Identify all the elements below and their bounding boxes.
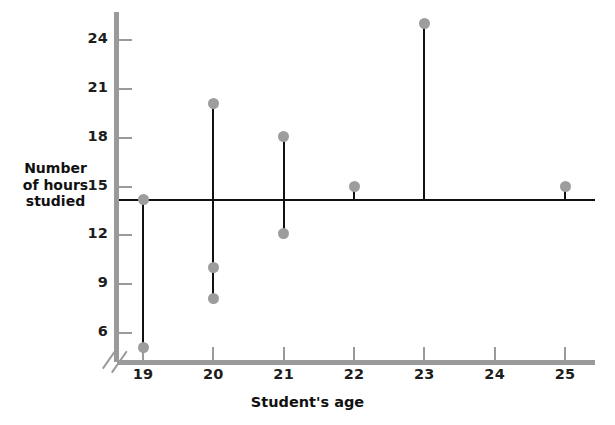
scatter-chart: 691215182124 19202122232425 Numberof hou… (0, 0, 615, 425)
data-point (138, 194, 149, 205)
x-axis-title: Student's age (0, 394, 615, 410)
y-tick-label: 9 (62, 274, 108, 290)
y-tick-label: 24 (62, 30, 108, 46)
x-tick-label: 19 (121, 366, 165, 382)
data-stem (142, 199, 144, 348)
y-axis-title-line: studied (8, 193, 103, 210)
data-stem (283, 136, 285, 234)
x-tick-label: 20 (191, 366, 235, 382)
x-tick (564, 347, 566, 360)
data-point (208, 293, 219, 304)
data-point (138, 342, 149, 353)
y-tick (119, 137, 132, 139)
x-tick (353, 347, 355, 360)
y-tick-label: 6 (62, 323, 108, 339)
x-tick-label: 23 (402, 366, 446, 382)
x-tick (212, 347, 214, 360)
x-tick (423, 347, 425, 360)
y-tick (119, 186, 132, 188)
x-axis-line (117, 360, 595, 365)
y-axis-title-line: of hours (8, 177, 103, 194)
x-tick (494, 347, 496, 360)
data-point (278, 228, 289, 239)
y-axis-title-line: Number (8, 160, 103, 177)
y-tick (119, 332, 132, 334)
data-point (419, 18, 430, 29)
x-tick-label: 22 (332, 366, 376, 382)
x-tick-label: 25 (543, 366, 587, 382)
y-tick (119, 88, 132, 90)
y-tick-label: 21 (62, 79, 108, 95)
y-axis-title: Numberof hoursstudied (8, 160, 103, 210)
x-tick-label: 24 (473, 366, 517, 382)
x-tick-label: 21 (262, 366, 306, 382)
data-stem (423, 24, 425, 199)
mean-line (119, 199, 595, 201)
y-tick (119, 39, 132, 41)
y-tick (119, 234, 132, 236)
y-tick-label: 18 (62, 128, 108, 144)
data-point (560, 181, 571, 192)
data-point (208, 262, 219, 273)
data-point (208, 98, 219, 109)
y-tick (119, 283, 132, 285)
y-tick-label: 12 (62, 225, 108, 241)
data-point (349, 181, 360, 192)
x-tick (283, 347, 285, 360)
data-point (278, 131, 289, 142)
